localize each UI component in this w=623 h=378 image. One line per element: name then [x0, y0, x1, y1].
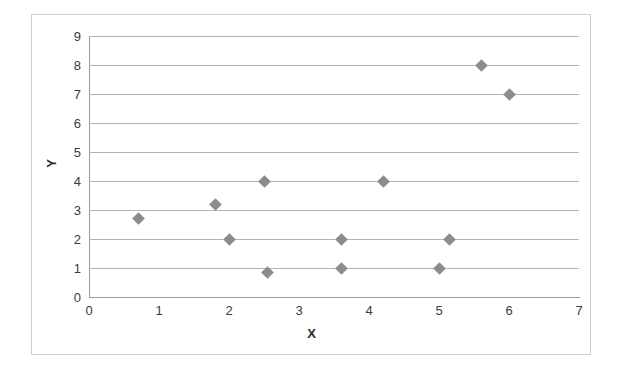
data-point-11 — [503, 88, 516, 101]
y-axis-title: Y — [44, 159, 59, 168]
data-point-5 — [335, 233, 348, 246]
gridline-y-3 — [89, 210, 579, 211]
y-tick-label-6: 6 — [53, 117, 81, 130]
x-tick-label-3: 3 — [284, 303, 314, 318]
x-tick-label-6: 6 — [494, 303, 524, 318]
gridline-y-6 — [89, 123, 579, 124]
x-tick-label-0: 0 — [74, 303, 104, 318]
x-tick-label-4: 4 — [354, 303, 384, 318]
y-axis-tick-labels: 0123456789 — [53, 0, 81, 378]
y-tick-label-3: 3 — [53, 204, 81, 217]
x-axis-line — [89, 297, 580, 298]
x-axis-title: X — [0, 326, 623, 341]
data-point-7 — [377, 175, 390, 188]
data-point-9 — [443, 233, 456, 246]
x-tick-label-1: 1 — [144, 303, 174, 318]
data-point-0 — [132, 212, 145, 225]
gridline-y-5 — [89, 152, 579, 153]
gridline-y-9 — [89, 36, 579, 37]
gridline-y-4 — [89, 181, 579, 182]
data-point-8 — [433, 262, 446, 275]
x-tick-label-7: 7 — [564, 303, 594, 318]
y-tick-label-2: 2 — [53, 233, 81, 246]
y-tick-label-7: 7 — [53, 88, 81, 101]
plot-area — [89, 36, 579, 297]
y-tick-label-4: 4 — [53, 175, 81, 188]
gridline-y-8 — [89, 65, 579, 66]
data-point-2 — [223, 233, 236, 246]
data-point-10 — [475, 59, 488, 72]
y-tick-label-9: 9 — [53, 30, 81, 43]
y-tick-label-5: 5 — [53, 146, 81, 159]
y-tick-label-1: 1 — [53, 262, 81, 275]
data-point-6 — [335, 262, 348, 275]
data-point-3 — [258, 175, 271, 188]
scatter-chart-page: 0123456789 01234567 Y X — [0, 0, 623, 378]
data-point-1 — [209, 198, 222, 211]
y-tick-label-8: 8 — [53, 59, 81, 72]
x-tick-label-5: 5 — [424, 303, 454, 318]
x-tick-label-2: 2 — [214, 303, 244, 318]
